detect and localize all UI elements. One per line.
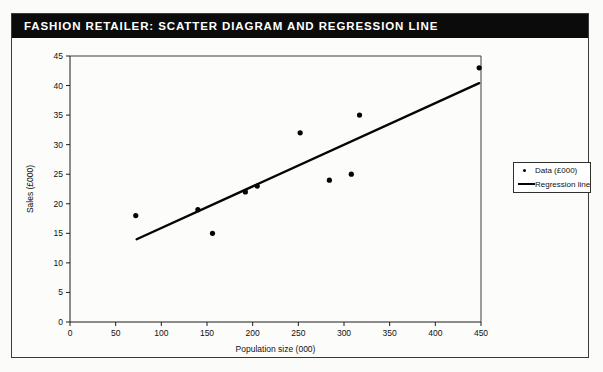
data-point	[133, 213, 138, 218]
x-tick-label: 200	[246, 328, 260, 338]
data-point	[298, 130, 303, 135]
x-tick-label: 0	[68, 328, 73, 338]
y-tick-label: 5	[58, 287, 63, 297]
chart-legend: Data (£000) Regression line	[513, 162, 591, 193]
legend-line-icon	[517, 179, 535, 189]
y-tick-label: 0	[58, 317, 63, 327]
regression-line	[137, 83, 480, 239]
y-tick-label: 45	[54, 51, 64, 61]
y-axis-label: Sales (£000)	[25, 165, 35, 213]
x-tick-label: 50	[111, 328, 121, 338]
regression-line-group	[137, 83, 480, 239]
plot-border-path	[70, 56, 481, 322]
data-point	[210, 231, 215, 236]
x-tick-label: 450	[474, 328, 488, 338]
x-tick-label: 100	[154, 328, 168, 338]
axis-lines	[70, 56, 481, 322]
data-point	[243, 189, 248, 194]
legend-item-regression: Regression line	[514, 177, 590, 191]
x-tick-label: 300	[337, 328, 351, 338]
y-tick-label: 10	[54, 258, 64, 268]
plot-frame	[70, 56, 481, 322]
data-point	[255, 183, 260, 188]
data-point	[357, 113, 362, 118]
y-tick-label: 35	[54, 110, 64, 120]
data-points-group	[133, 65, 482, 236]
y-axis-ticks: 051015202530354045	[54, 51, 70, 327]
x-tick-label: 150	[200, 328, 214, 338]
y-tick-label: 20	[54, 199, 64, 209]
data-point	[327, 178, 332, 183]
legend-dot-icon	[517, 165, 535, 175]
y-tick-label: 25	[54, 169, 64, 179]
legend-label-regression: Regression line	[535, 180, 590, 189]
data-point	[477, 65, 482, 70]
legend-label-data: Data (£000)	[535, 166, 577, 175]
axis-titles: Population size (000) Sales (£000)	[25, 165, 316, 354]
x-tick-label: 400	[428, 328, 442, 338]
x-axis-ticks: 050100150200250300350400450	[68, 322, 489, 338]
page-background: FASHION RETAILER: SCATTER DIAGRAM AND RE…	[0, 0, 603, 372]
y-tick-label: 15	[54, 228, 64, 238]
y-tick-label: 30	[54, 140, 64, 150]
legend-item-data: Data (£000)	[514, 163, 590, 177]
y-tick-label: 40	[54, 81, 64, 91]
x-tick-label: 350	[383, 328, 397, 338]
x-axis-label: Population size (000)	[236, 344, 316, 354]
x-tick-label: 250	[291, 328, 305, 338]
data-point	[195, 207, 200, 212]
data-point	[349, 172, 354, 177]
